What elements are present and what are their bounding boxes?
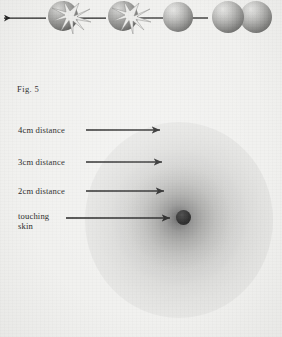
skin-contact-point	[176, 210, 191, 225]
figure-caption: Fig. 5	[17, 84, 39, 94]
label-touching-skin-line2: skin	[18, 221, 49, 231]
top-sphere-sequence	[0, 0, 282, 40]
sphere-plain	[163, 2, 193, 32]
figure-page: Fig. 5 4cm distance 3cm distance 2cm dis…	[0, 0, 282, 337]
sphere-pair-left	[212, 1, 244, 33]
sphere-pair	[212, 1, 272, 33]
label-2cm-distance: 2cm distance	[18, 186, 65, 196]
label-touching-skin: touching skin	[18, 211, 49, 231]
sphere-pair-right	[240, 1, 272, 33]
label-3cm-distance: 3cm distance	[18, 157, 65, 167]
label-4cm-distance: 4cm distance	[18, 125, 65, 135]
label-touching-skin-line1: touching	[18, 211, 49, 221]
